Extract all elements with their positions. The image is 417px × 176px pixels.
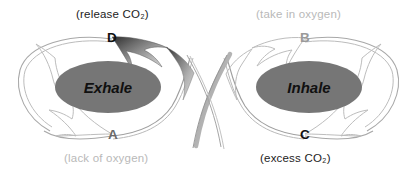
node-label-a: A — [108, 127, 118, 142]
caption-lack-of-oxygen: (lack of oxygen) — [64, 152, 148, 164]
caption-take-in-oxygen: (take in oxygen) — [256, 8, 341, 20]
breathing-cycle-diagram: (release CO₂) (take in oxygen) (lack of … — [0, 0, 417, 176]
exhale-label: Exhale — [84, 79, 132, 96]
caption-release-co2: (release CO₂) — [76, 8, 149, 20]
center-crossing — [187, 54, 230, 149]
node-label-c: C — [300, 127, 310, 142]
inhale-label: Inhale — [287, 79, 330, 96]
node-label-b: B — [300, 30, 310, 45]
caption-excess-co2: (excess CO₂) — [260, 152, 331, 164]
inhale-phase: Inhale — [256, 61, 362, 113]
exhale-phase: Exhale — [55, 61, 161, 113]
node-label-d: D — [107, 30, 117, 45]
